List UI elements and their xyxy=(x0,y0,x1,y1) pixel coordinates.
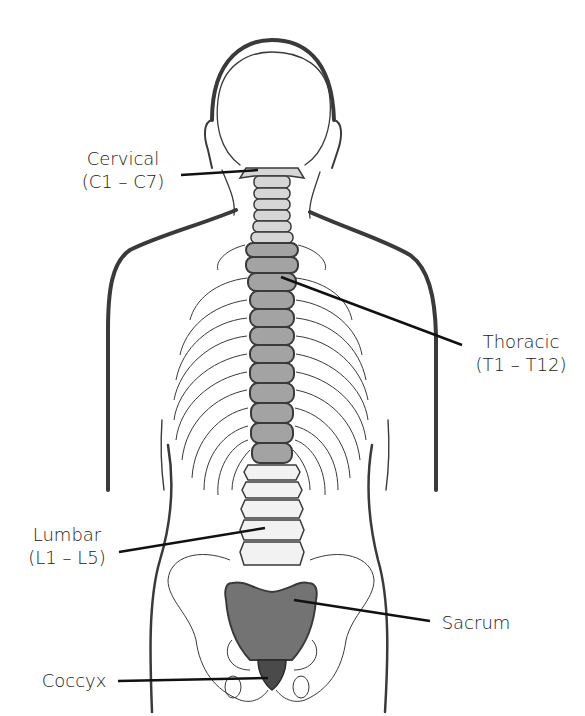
lumbar-label: Lumbar (L1 – L5) xyxy=(22,523,112,569)
cervical-vertebrae xyxy=(240,168,304,243)
coccyx-bone xyxy=(258,660,286,690)
thoracic-range: (T1 – T12) xyxy=(466,353,576,376)
lumbar-range: (L1 – L5) xyxy=(22,546,112,569)
lumbar-name: Lumbar xyxy=(22,523,112,546)
sacrum-name: Sacrum xyxy=(436,611,516,634)
thoracic-label: Thoracic (T1 – T12) xyxy=(466,330,576,376)
coccyx-leader-line xyxy=(118,678,268,681)
lumbar-vertebrae xyxy=(240,465,304,565)
sacrum-label: Sacrum xyxy=(436,611,516,634)
cervical-range: (C1 – C7) xyxy=(78,170,168,193)
cervical-name: Cervical xyxy=(78,147,168,170)
sacrum-bone xyxy=(225,582,316,660)
coccyx-name: Coccyx xyxy=(34,669,114,692)
thoracic-name: Thoracic xyxy=(466,330,576,353)
cervical-label: Cervical (C1 – C7) xyxy=(78,147,168,193)
thoracic-vertebrae xyxy=(246,243,298,463)
coccyx-label: Coccyx xyxy=(34,669,114,692)
